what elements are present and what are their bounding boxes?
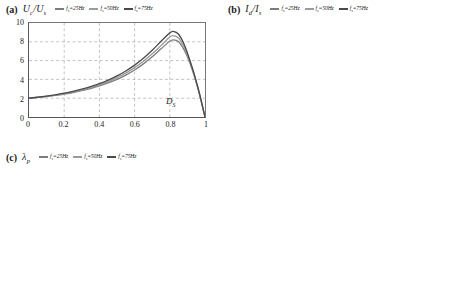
xtick-label: 0.2 xyxy=(59,120,69,129)
plot-a-area xyxy=(28,22,206,118)
ytick-label: 0 xyxy=(20,114,24,123)
legend-label-75hz: fs=75Hz xyxy=(350,5,368,13)
panel-b-legend: fs=25Hz fs=50Hz fs=75Hz xyxy=(270,5,367,13)
panel-c-ylabel: λp xyxy=(22,151,30,164)
legend-label-50hz: fs=50Hz xyxy=(100,5,118,13)
legend-item-75hz: fs=75Hz xyxy=(107,153,136,161)
figure-container: (a) Uc/Us fs=25Hz fs=50Hz fs=75Hz xyxy=(0,0,449,298)
panel-a-ylabel: Uc/Us xyxy=(23,3,47,16)
legend-swatch-25hz xyxy=(55,8,64,10)
legend-item-75hz: fs=75Hz xyxy=(124,5,153,13)
legend-label-25hz: fs=25Hz xyxy=(281,5,299,13)
panel-a: (a) Uc/Us fs=25Hz fs=50Hz fs=75Hz xyxy=(0,0,224,148)
panel-b-header: (b) Id/Is fs=25Hz fs=50Hz fs=75Hz xyxy=(222,0,449,18)
panel-a-header: (a) Uc/Us fs=25Hz fs=50Hz fs=75Hz xyxy=(0,0,224,18)
ytick-label: 10 xyxy=(16,18,24,27)
xtick-label: 0 xyxy=(26,120,30,129)
legend-item-50hz: fs=50Hz xyxy=(73,153,102,161)
plot-a-xaxis-name: DS xyxy=(166,96,176,108)
legend-label-50hz: fs=50Hz xyxy=(84,153,102,161)
ytick-label: 4 xyxy=(20,75,24,84)
xtick-label: 1 xyxy=(204,120,208,129)
legend-label-50hz: fs=50Hz xyxy=(316,5,334,13)
legend-swatch-25hz xyxy=(39,156,48,158)
panel-c-legend: fs=25Hz fs=50Hz fs=75Hz xyxy=(39,153,136,161)
panel-c: (c) λp fs=25Hz fs=50Hz fs=75Hz xyxy=(0,148,224,298)
legend-item-25hz: fs=25Hz xyxy=(270,5,299,13)
legend-swatch-75hz xyxy=(124,8,133,10)
legend-swatch-25hz xyxy=(270,8,279,10)
legend-item-25hz: fs=25Hz xyxy=(39,153,68,161)
legend-label-25hz: fs=25Hz xyxy=(66,5,84,13)
legend-swatch-75hz xyxy=(339,8,348,10)
plot-a-svg xyxy=(29,23,205,117)
ytick-label: 2 xyxy=(20,94,24,103)
legend-swatch-50hz xyxy=(89,8,98,10)
legend-label-25hz: fs=25Hz xyxy=(50,153,68,161)
panel-c-header: (c) λp fs=25Hz fs=50Hz fs=75Hz xyxy=(0,148,224,166)
legend-item-50hz: fs=50Hz xyxy=(89,5,118,13)
ytick-label: 8 xyxy=(20,37,24,46)
legend-label-75hz: fs=75Hz xyxy=(135,5,153,13)
legend-swatch-75hz xyxy=(107,156,116,158)
xtick-label: 0.6 xyxy=(130,120,140,129)
panel-b-ylabel: Id/Is xyxy=(245,3,261,16)
plot-a: 0246810 00.20.40.60.81 DS xyxy=(28,22,206,118)
xtick-label: 0.8 xyxy=(165,120,175,129)
legend-swatch-50hz xyxy=(73,156,82,158)
panel-b: (b) Id/Is fs=25Hz fs=50Hz fs=75Hz xyxy=(222,0,449,148)
legend-swatch-50hz xyxy=(305,8,314,10)
panel-c-tag: (c) xyxy=(6,152,17,163)
panel-b-tag: (b) xyxy=(228,4,240,15)
legend-item-75hz: fs=75Hz xyxy=(339,5,368,13)
legend-label-75hz: fs=75Hz xyxy=(118,153,136,161)
legend-item-25hz: fs=25Hz xyxy=(55,5,84,13)
plot-a-xtick-labels: 00.20.40.60.81 xyxy=(28,118,206,134)
xtick-label: 0.4 xyxy=(94,120,104,129)
ytick-label: 6 xyxy=(20,56,24,65)
panel-a-tag: (a) xyxy=(6,4,18,15)
legend-item-50hz: fs=50Hz xyxy=(305,5,334,13)
plot-a-ytick-labels: 0246810 xyxy=(2,22,28,118)
panel-a-legend: fs=25Hz fs=50Hz fs=75Hz xyxy=(55,5,152,13)
